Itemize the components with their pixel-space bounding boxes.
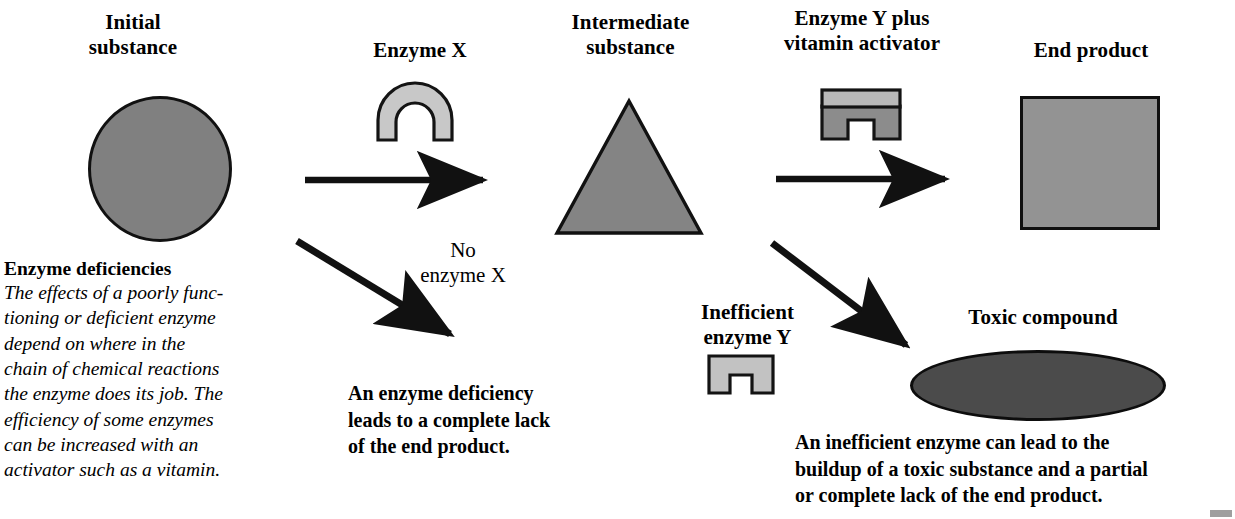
label-initial-substance: Initial substance [28, 10, 238, 59]
initial-substance-circle [88, 96, 232, 242]
enzyme-x-arch-shape [378, 83, 452, 140]
label-enzyme-y-plus-vitamin: Enzyme Y plus vitamin activator [752, 6, 972, 55]
label-intermediate-substance: Intermediate substance [523, 10, 738, 59]
diagram-canvas: Initial substance Enzyme X Intermediate … [0, 0, 1235, 519]
caption-deficiency-outcome: An enzyme deficiency leads to a complete… [348, 380, 678, 460]
vitamin-activator-bar-shape [822, 90, 900, 107]
corner-mark [1210, 510, 1232, 517]
sidebar-caption-heading: Enzyme deficiencies [4, 256, 254, 281]
sidebar-caption-body: The effects of a poorly func- tioning or… [4, 280, 256, 483]
intermediate-substance-triangle [557, 101, 701, 233]
enzyme-y-block-shape [822, 106, 900, 139]
label-toxic-compound: Toxic compound [928, 305, 1158, 330]
toxic-compound-ellipse [910, 350, 1166, 421]
label-no-enzyme-x: No enzyme X [378, 238, 548, 287]
inefficient-enzyme-y-shape [709, 356, 773, 393]
end-product-square [1020, 96, 1160, 230]
caption-inefficient-outcome: An inefficient enzyme can lead to the bu… [795, 429, 1235, 509]
label-enzyme-x: Enzyme X [330, 38, 510, 63]
label-inefficient-enzyme-y: Inefficient enzyme Y [660, 300, 835, 349]
label-end-product: End product [1000, 38, 1182, 63]
